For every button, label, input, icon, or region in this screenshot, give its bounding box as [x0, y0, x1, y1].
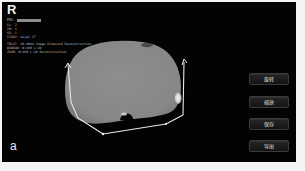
rotate-button[interactable]: 旋转: [249, 73, 289, 85]
save-button-label: 保存: [264, 121, 274, 127]
export-button[interactable]: 导出: [249, 140, 289, 152]
zoom-button-label: 缩放: [264, 99, 274, 105]
figure-panel-label: a: [10, 140, 17, 152]
export-button-label: 导出: [264, 143, 274, 149]
save-button[interactable]: 保存: [249, 118, 289, 130]
rotate-button-label: 旋转: [264, 76, 274, 82]
body-cross-section: [65, 41, 181, 124]
image-viewer-panel[interactable]: R PID: SL: 2 IM: 3 SE: 1 STUDY: Axial CT…: [2, 2, 296, 162]
zoom-button[interactable]: 缩放: [249, 96, 289, 108]
